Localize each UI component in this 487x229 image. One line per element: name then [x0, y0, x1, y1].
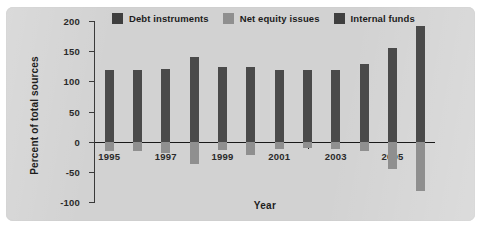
bar-net-equity-issues-1999[interactable]	[218, 142, 227, 150]
y-tick-label: 0	[75, 136, 80, 147]
x-axis-title: Year	[95, 200, 435, 211]
bar-internal-funds-2002[interactable]	[303, 70, 312, 142]
bar-internal-funds-2001[interactable]	[275, 70, 284, 141]
bar-net-equity-issues-2006[interactable]	[416, 142, 425, 191]
bar-internal-funds-1999[interactable]	[218, 67, 227, 141]
bar-net-equity-issues-1998[interactable]	[190, 142, 199, 164]
plot-area: 200150100500-50-100 19951997199920012003…	[95, 21, 435, 202]
y-tick-label: -50	[66, 166, 80, 177]
bar-internal-funds-2006[interactable]	[416, 26, 425, 141]
x-axis-line	[94, 142, 435, 143]
y-tick: 100	[89, 81, 95, 82]
y-tick-label: 100	[64, 76, 80, 87]
bar-net-equity-issues-2005[interactable]	[388, 142, 397, 170]
y-tick: -50	[89, 172, 95, 173]
y-tick: 0	[89, 142, 95, 143]
bar-internal-funds-2003[interactable]	[331, 70, 340, 141]
y-tick-label: 50	[69, 106, 80, 117]
x-tick-label: 2003	[325, 151, 347, 162]
bar-net-equity-issues-2004[interactable]	[360, 142, 369, 152]
y-axis-title-text: Percent of total sources	[29, 56, 40, 175]
y-tick: 200	[89, 21, 95, 22]
x-tick-label: 1999	[212, 151, 234, 162]
bar-internal-funds-1998[interactable]	[190, 57, 199, 141]
y-tick-label: 150	[64, 46, 80, 57]
y-tick-label: -100	[60, 197, 80, 208]
y-axis-title: Percent of total sources	[26, 50, 42, 180]
x-tick-label: 1995	[98, 151, 120, 162]
bar-net-equity-issues-2000[interactable]	[246, 142, 255, 155]
bar-internal-funds-1997[interactable]	[161, 69, 170, 141]
bar-net-equity-issues-1997[interactable]	[161, 142, 170, 153]
y-tick: 150	[89, 51, 95, 52]
x-tick-label: 2001	[268, 151, 290, 162]
bar-net-equity-issues-1996[interactable]	[133, 142, 142, 151]
bar-internal-funds-1995[interactable]	[105, 70, 114, 142]
y-tick-label: 200	[64, 16, 80, 27]
bar-net-equity-issues-2001[interactable]	[275, 142, 284, 149]
bar-internal-funds-1996[interactable]	[133, 70, 142, 141]
x-tick-label: 1997	[155, 151, 177, 162]
bar-internal-funds-2005[interactable]	[388, 48, 397, 142]
bar-net-equity-issues-2002[interactable]	[303, 142, 312, 149]
chart-figure: Debt instruments Net equity issues Inter…	[0, 0, 487, 229]
y-tick: 50	[89, 112, 95, 113]
bar-net-equity-issues-1995[interactable]	[105, 142, 114, 152]
bar-net-equity-issues-2003[interactable]	[331, 142, 340, 150]
bar-internal-funds-2004[interactable]	[360, 64, 369, 141]
bar-internal-funds-2000[interactable]	[246, 67, 255, 142]
